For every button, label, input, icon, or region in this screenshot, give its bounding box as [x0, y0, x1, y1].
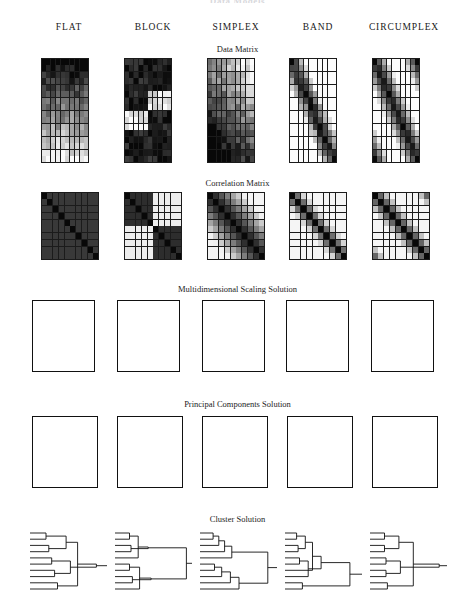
heatmap-cell — [301, 253, 306, 259]
heatmap-cell — [213, 213, 218, 219]
heatmap-cell — [377, 143, 381, 149]
heatmap-cell — [42, 213, 47, 219]
heatmap-cell — [390, 253, 395, 259]
heatmap-cell — [290, 220, 295, 226]
heatmap-cell — [167, 156, 171, 162]
heatmap-cell — [396, 143, 400, 149]
heatmap-cell — [93, 213, 98, 219]
mds-points — [203, 301, 264, 371]
heatmap-cell — [231, 130, 235, 136]
heatmap-cell — [165, 247, 170, 253]
heatmap-cell — [330, 240, 335, 246]
heatmap-cell — [225, 213, 230, 219]
heatmap-cell — [254, 226, 259, 232]
heatmap-cell — [231, 150, 235, 156]
heatmap-cell — [392, 137, 396, 143]
heatmap-cell — [304, 78, 308, 84]
heatmap-cell — [309, 137, 313, 143]
heatmap-cell — [46, 65, 50, 71]
heatmap-cell — [330, 226, 335, 232]
heatmap-cell — [42, 85, 46, 91]
heatmap-cell — [227, 156, 231, 162]
heatmap-cell — [242, 193, 247, 199]
heatmap-cell — [401, 124, 405, 130]
heatmap-cell — [301, 226, 306, 232]
heatmap-cell — [401, 111, 405, 117]
heatmap-cell — [217, 111, 221, 117]
heatmap-cell — [301, 247, 306, 253]
heatmap-cell — [250, 98, 254, 104]
heatmap-cell — [142, 193, 147, 199]
heatmap-cell — [171, 213, 176, 219]
heatmap-cell — [323, 137, 327, 143]
heatmap-cell — [290, 72, 294, 78]
heatmap-cell — [396, 240, 401, 246]
heatmap-cell — [424, 226, 429, 232]
heatmap-cell — [401, 72, 405, 78]
heatmap-cell — [330, 220, 335, 226]
heatmap-cell — [241, 91, 245, 97]
heatmap-cell — [396, 91, 400, 97]
heatmap-cell — [130, 206, 135, 212]
heatmap-cell — [153, 220, 158, 226]
heatmap-cell — [241, 130, 245, 136]
heatmap-cell — [158, 85, 162, 91]
heatmap-cell — [65, 85, 69, 91]
heatmap-cell — [53, 220, 58, 226]
heatmap-cell — [148, 91, 152, 97]
heatmap-cell — [318, 233, 323, 239]
heatmap-cell — [318, 240, 323, 246]
heatmap-cell — [222, 65, 226, 71]
heatmap-cell — [65, 98, 69, 104]
heatmap-grid — [289, 58, 337, 163]
heatmap-cell — [88, 220, 93, 226]
heatmap-cell — [236, 156, 240, 162]
heatmap-cell — [236, 143, 240, 149]
heatmap-cell — [59, 247, 64, 253]
heatmap-cell — [56, 85, 60, 91]
heatmap-cell — [153, 247, 158, 253]
heatmap-cell — [75, 111, 79, 117]
heatmap-cell — [153, 85, 157, 91]
heatmap-cell — [373, 85, 377, 91]
heatmap-cell — [295, 220, 300, 226]
heatmap-cell — [328, 65, 332, 71]
heatmap-cell — [70, 65, 74, 71]
heatmap-cell — [328, 59, 332, 65]
heatmap-cell — [227, 124, 231, 130]
heatmap-cell — [125, 206, 130, 212]
heatmap-cell — [250, 72, 254, 78]
heatmap-cell — [217, 156, 221, 162]
heatmap-cell — [70, 78, 74, 84]
heatmap-cell — [248, 213, 253, 219]
heatmap-cell — [378, 206, 383, 212]
heatmap-cell — [212, 59, 216, 65]
heatmap-cell — [373, 117, 377, 123]
heatmap-cell — [65, 233, 70, 239]
heatmap-cell — [139, 78, 143, 84]
heatmap-cell — [208, 220, 213, 226]
heatmap-cell — [42, 253, 47, 259]
heatmap-cell — [153, 199, 158, 205]
heatmap-cell — [65, 199, 70, 205]
heatmap-cell — [254, 193, 259, 199]
heatmap-cell — [163, 111, 167, 117]
heatmap-cell — [153, 72, 157, 78]
heatmap-cell — [208, 143, 212, 149]
heatmap-cell — [241, 98, 245, 104]
heatmap-cell — [294, 72, 298, 78]
heatmap-cell — [301, 233, 306, 239]
heatmap-cell — [163, 130, 167, 136]
dendrogram-block — [115, 530, 193, 592]
heatmap-cell — [61, 59, 65, 65]
heatmap-cell — [51, 130, 55, 136]
heatmap-cell — [42, 247, 47, 253]
heatmap-cell — [56, 150, 60, 156]
heatmap-cell — [330, 253, 335, 259]
heatmap-cell — [392, 98, 396, 104]
heatmap-cell — [217, 130, 221, 136]
heatmap-cell — [294, 137, 298, 143]
heatmap-cell — [125, 150, 129, 156]
heatmap-cell — [413, 240, 418, 246]
heatmap-cell — [212, 124, 216, 130]
